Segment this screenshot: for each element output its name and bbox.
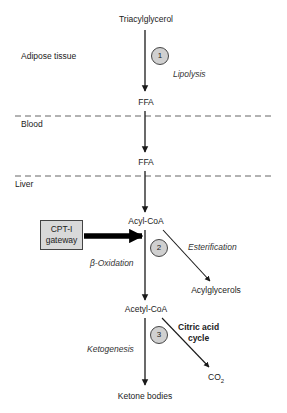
process-beta-oxidation: β-Oxidation	[90, 258, 134, 268]
process-esterification: Esterification	[188, 242, 237, 252]
node-ffa-liver: FFA	[138, 157, 154, 167]
node-acyl-coa: Acyl-CoA	[128, 216, 163, 226]
node-co2: CO2	[208, 372, 224, 384]
step-2-number: 2	[157, 243, 161, 252]
compartment-blood-label: Blood	[21, 119, 43, 129]
node-acylglycerols: Acylglycerols	[191, 285, 241, 295]
gateway-label: gateway	[41, 235, 82, 246]
citric-acid-line1: Citric acid	[178, 322, 219, 333]
node-triacylglycerol: Triacylglycerol	[119, 14, 173, 24]
node-acetyl-coa: Acetyl-CoA	[125, 304, 168, 314]
step-3-number: 3	[157, 330, 161, 339]
co2-subscript: 2	[221, 378, 224, 384]
process-lipolysis: Lipolysis	[173, 69, 206, 79]
node-ketone-bodies: Ketone bodies	[118, 391, 172, 401]
compartment-liver-label: Liver	[15, 179, 33, 189]
step-1-number: 1	[158, 51, 162, 60]
process-ketogenesis: Ketogenesis	[87, 344, 134, 354]
node-ffa-adipose: FFA	[138, 97, 154, 107]
process-citric-acid-cycle: Citric acid cycle	[178, 322, 219, 344]
cpt-i-gateway-box: CPT-I gateway	[40, 220, 83, 250]
arrow-esterification	[163, 230, 210, 281]
cpt-i-label: CPT-I	[41, 224, 82, 235]
co2-text: CO	[208, 372, 221, 382]
pathway-diagram	[0, 0, 287, 413]
compartment-adipose-label: Adipose tissue	[21, 51, 76, 61]
citric-acid-line2: cycle	[178, 333, 219, 344]
